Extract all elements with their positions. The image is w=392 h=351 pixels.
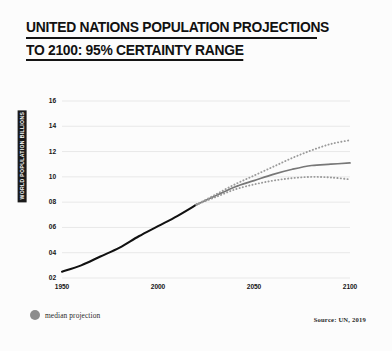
data-series-group — [62, 140, 350, 271]
series-95-upper-bound — [196, 140, 350, 204]
series-historical — [62, 205, 196, 272]
series-median-projection — [196, 163, 350, 205]
y-axis-title: WORLD POPULATION BILLIONS — [18, 110, 27, 202]
y-tick-label: 06 — [40, 223, 56, 230]
source-note: Source: UN, 2019 — [314, 316, 366, 323]
y-tick-label: 16 — [40, 97, 56, 104]
chart-legend: median projection — [30, 310, 100, 320]
x-tick-label: 2100 — [335, 283, 365, 290]
x-tick-label: 1950 — [47, 283, 77, 290]
y-tick-label: 04 — [40, 249, 56, 256]
legend-median-dot-icon — [30, 310, 40, 320]
y-tick-label: 14 — [40, 122, 56, 129]
y-tick-label: 12 — [40, 148, 56, 155]
x-tick-label: 2000 — [143, 283, 173, 290]
chart-svg — [0, 0, 392, 351]
x-tick-label: 2050 — [239, 283, 269, 290]
plot-area: WORLD POPULATION BILLIONS 02040608101214… — [0, 0, 392, 351]
chart-card: UNITED NATIONS POPULATION PROJECTIONS TO… — [0, 0, 392, 351]
y-tick-label: 10 — [40, 173, 56, 180]
legend-median-label: median projection — [45, 311, 100, 320]
series-95-lower-bound — [196, 177, 350, 205]
y-tick-label: 08 — [40, 198, 56, 205]
y-tick-label: 02 — [40, 274, 56, 281]
gridlines — [62, 101, 350, 278]
